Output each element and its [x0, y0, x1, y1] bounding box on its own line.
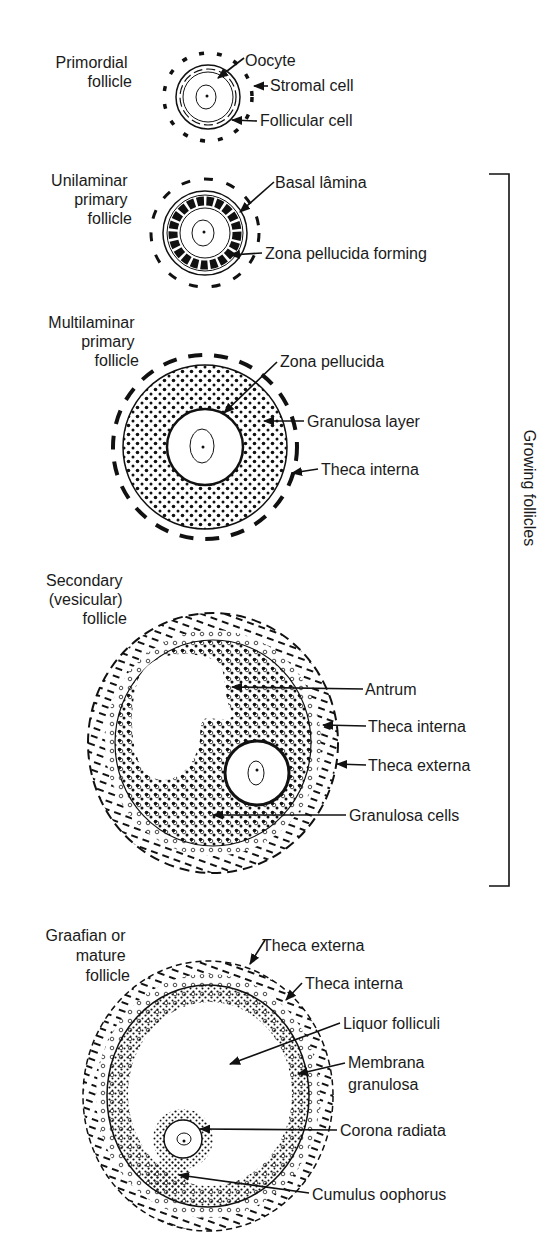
label-liquor-folliculi: Liquor folliculi: [343, 1015, 440, 1032]
label-zona-pellucida-forming: Zona pellucida forming: [265, 245, 427, 262]
stage-unilaminar-primary: Unilaminar primary follicle Basal lâmina…: [51, 172, 427, 287]
label-theca-externa: Theca externa: [262, 937, 364, 954]
label-cumulus-oophorus: Cumulus oophorus: [312, 1186, 446, 1203]
unilaminar-follicle-drawing: [151, 179, 259, 287]
label-theca-interna: Theca interna: [368, 718, 466, 735]
stage-name: Primordial follicle: [56, 54, 133, 90]
label-zona-pellucida: Zona pellucida: [280, 353, 384, 370]
stage-multilaminar-primary: Multilaminar primary follicle Zona pellu…: [48, 314, 420, 539]
label-granulosa-layer: Granulosa layer: [307, 413, 421, 430]
label-antrum: Antrum: [365, 681, 417, 698]
growing-follicles-bracket: Growing follicles: [489, 174, 538, 886]
secondary-follicle-drawing: [88, 613, 338, 873]
bracket-label: Growing follicles: [521, 430, 538, 546]
primordial-follicle-drawing: [164, 53, 252, 141]
stage-secondary-vesicular: Secondary (vesicular) follicle Antrum Th…: [46, 572, 470, 873]
stage-name: Multilaminar primary follicle: [48, 314, 139, 369]
label-corona-radiata: Corona radiata: [340, 1122, 446, 1139]
label-oocyte: Oocyte: [245, 52, 296, 69]
label-theca-interna: Theca interna: [305, 975, 403, 992]
label-theca-externa: Theca externa: [368, 757, 470, 774]
label-basal-lamina: Basal lâmina: [275, 174, 367, 191]
multilaminar-follicle-drawing: [113, 355, 297, 539]
label-granulosa-cells: Granulosa cells: [349, 807, 459, 824]
follicle-development-diagram: Primordial follicle Oocyte Stromal cell …: [0, 0, 560, 1258]
stage-name: Graafian or mature follicle: [46, 927, 131, 984]
label-membrana-granulosa: Membrana granulosa: [348, 1054, 429, 1093]
label-follicular-cell: Follicular cell: [260, 112, 352, 129]
label-theca-interna: Theca interna: [321, 461, 419, 478]
stage-name: Unilaminar primary follicle: [51, 172, 132, 227]
stage-name: Secondary (vesicular) follicle: [46, 572, 127, 627]
stage-primordial: Primordial follicle Oocyte Stromal cell …: [56, 52, 354, 141]
stage-graafian-mature: Graafian or mature follicle Theca extern…: [46, 927, 447, 1231]
label-stromal-cell: Stromal cell: [270, 77, 354, 94]
